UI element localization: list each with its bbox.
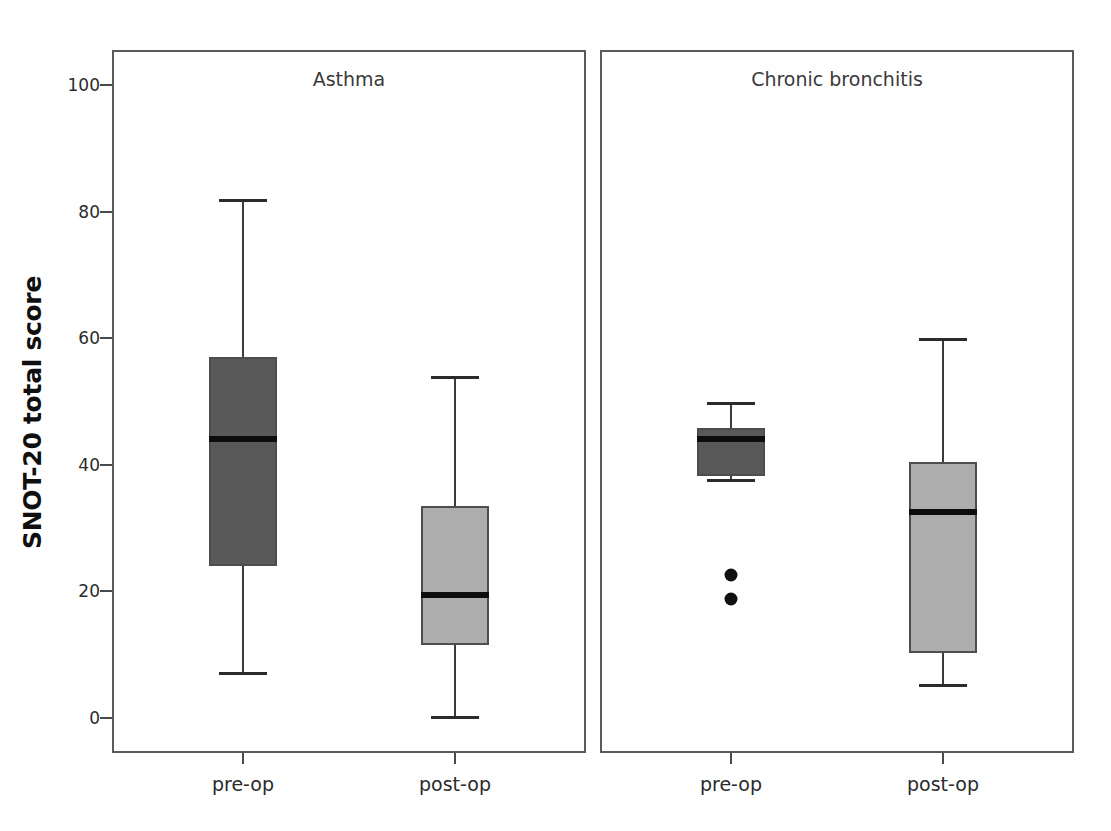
x-axis-tick-mark bbox=[242, 753, 244, 764]
y-axis-tick-label: 80 bbox=[0, 202, 100, 222]
y-axis-tick-mark bbox=[100, 717, 112, 719]
x-axis-tick-mark bbox=[454, 753, 456, 764]
whisker-upper bbox=[730, 402, 732, 429]
whisker-cap-lower bbox=[919, 684, 967, 687]
box bbox=[421, 506, 489, 645]
panel-chronic-bronchitis-title: Chronic bronchitis bbox=[602, 68, 1072, 90]
whisker-lower bbox=[942, 653, 944, 686]
whisker-cap-lower bbox=[219, 672, 267, 675]
panel-chronic-bronchitis: Chronic bronchitis bbox=[600, 50, 1074, 753]
box bbox=[909, 462, 977, 654]
y-axis-tick-mark bbox=[100, 84, 112, 86]
whisker-cap-upper bbox=[219, 199, 267, 202]
whisker-upper bbox=[942, 338, 944, 461]
y-axis-tick-label: 60 bbox=[0, 328, 100, 348]
y-axis-tick-mark bbox=[100, 464, 112, 466]
y-axis-tick-label: 40 bbox=[0, 455, 100, 475]
boxplot-figure: SNOT-20 total score 020406080100 Asthma … bbox=[0, 0, 1111, 831]
y-axis-tick-mark bbox=[100, 211, 112, 213]
outlier-point bbox=[725, 592, 738, 605]
median-line bbox=[697, 436, 765, 442]
panel-asthma-title: Asthma bbox=[114, 68, 584, 90]
whisker-upper bbox=[242, 199, 244, 357]
median-line bbox=[209, 436, 277, 442]
whisker-cap-upper bbox=[707, 402, 755, 405]
box bbox=[209, 357, 277, 566]
outlier-point bbox=[725, 568, 738, 581]
whisker-lower bbox=[242, 566, 244, 674]
x-axis-tick-label: post-op bbox=[419, 773, 491, 795]
whisker-cap-upper bbox=[919, 338, 967, 341]
whisker-cap-lower bbox=[431, 716, 479, 719]
y-axis-tick-label: 20 bbox=[0, 581, 100, 601]
box bbox=[697, 428, 765, 475]
x-axis-tick-label: pre-op bbox=[212, 773, 274, 795]
x-axis-tick-mark bbox=[730, 753, 732, 764]
x-axis-tick-label: pre-op bbox=[700, 773, 762, 795]
x-axis-tick-label: post-op bbox=[907, 773, 979, 795]
x-axis-tick-mark bbox=[942, 753, 944, 764]
panel-asthma: Asthma bbox=[112, 50, 586, 753]
median-line bbox=[421, 592, 489, 598]
whisker-cap-upper bbox=[431, 376, 479, 379]
whisker-cap-lower bbox=[707, 479, 755, 482]
y-axis-tick-label: 100 bbox=[0, 75, 100, 95]
whisker-upper bbox=[454, 376, 456, 506]
y-axis-tick-mark bbox=[100, 590, 112, 592]
y-axis-tick-mark bbox=[100, 337, 112, 339]
y-axis-tick-label: 0 bbox=[0, 708, 100, 728]
median-line bbox=[909, 509, 977, 515]
whisker-lower bbox=[454, 645, 456, 718]
y-axis-title: SNOT-20 total score bbox=[18, 263, 47, 563]
